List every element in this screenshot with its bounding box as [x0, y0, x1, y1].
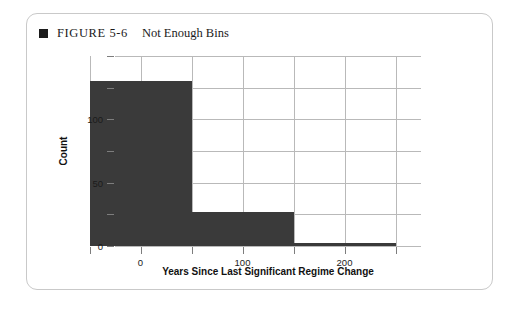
y-axis-tick: [107, 214, 114, 215]
y-axis-tick-label: 50: [69, 177, 103, 188]
x-axis-tick: [192, 247, 193, 254]
x-axis-tick: [243, 247, 244, 254]
gridline-vertical: [396, 56, 397, 246]
figure-card: FIGURE 5-6 Not Enough Bins Count Years S…: [26, 13, 493, 290]
gridline-vertical: [294, 56, 295, 246]
x-axis-tick: [396, 247, 397, 254]
x-axis-tick-label: 200: [337, 257, 353, 268]
y-axis-tick-label: 0: [69, 241, 103, 252]
y-axis-tick: [107, 119, 114, 120]
histogram-bar: [192, 212, 294, 246]
y-axis-tick: [107, 88, 114, 89]
x-axis-tick-label: 0: [138, 257, 143, 268]
y-axis-tick: [107, 151, 114, 152]
histogram-bar: [294, 243, 396, 246]
histogram-bar: [90, 81, 192, 246]
x-axis-tick: [141, 247, 142, 254]
y-axis-tick: [107, 56, 114, 57]
y-axis-tick: [107, 246, 114, 247]
plot-area: [115, 56, 421, 246]
x-axis-tick: [345, 247, 346, 254]
gridline-horizontal: [115, 56, 421, 57]
gridline-vertical: [345, 56, 346, 246]
x-axis-tick: [294, 247, 295, 254]
x-axis-tick: [90, 247, 91, 254]
y-axis-tick-label: 100: [69, 114, 103, 125]
x-axis-tick-label: 100: [235, 257, 251, 268]
y-axis-tick: [107, 183, 114, 184]
gridline-horizontal: [115, 246, 421, 247]
y-axis-label: Count: [58, 137, 69, 166]
chart-plot: Count Years Since Last Significant Regim…: [27, 14, 494, 291]
